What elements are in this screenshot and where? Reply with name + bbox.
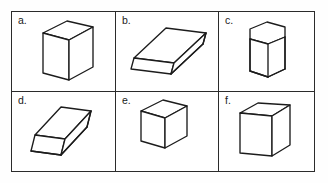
cell-e: e. (115, 91, 218, 172)
cell-d: d. (11, 91, 115, 172)
cell-b: b. (115, 11, 218, 91)
shape-d-oblique-slab-thick (11, 91, 115, 172)
cell-f: f. (218, 91, 315, 172)
shape-b-oblique-slab (115, 11, 218, 91)
cell-c: c. (218, 11, 315, 91)
shape-e-cube (115, 91, 218, 172)
cell-a: a. (11, 11, 115, 91)
shape-c-hexagonal-prism (218, 11, 315, 91)
figure-container: a. b. c. (0, 0, 328, 183)
shape-f-cube-shallow (218, 91, 315, 172)
shape-a-rectangular-prism (11, 11, 115, 91)
